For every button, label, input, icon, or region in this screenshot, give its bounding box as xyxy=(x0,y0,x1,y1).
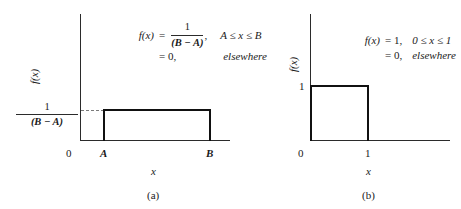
panel-a-caption: (a) xyxy=(147,190,159,201)
uniform-distribution-figure: f(x) = 1 (B − A) , A ≤ x ≤ B = 0, elsewh… xyxy=(0,0,461,209)
panel-a-formula-equals: = xyxy=(159,30,165,41)
panel-b-formula-lhs: f(x) xyxy=(352,35,380,46)
panel-a-formula-condition: A ≤ x ≤ B xyxy=(220,30,261,41)
panel-b-caption: (b) xyxy=(362,190,375,201)
panel-a-y-axis-label: f(x) xyxy=(29,69,40,84)
panel-a-x-axis-label: x xyxy=(151,166,156,177)
panel-a-formula: f(x) = 1 (B − A) , A ≤ x ≤ B = 0, elsewh… xyxy=(126,22,267,64)
panel-a-x-tick-0: 0 xyxy=(66,148,72,159)
panel-a-y-tick-label: 1 (B − A) xyxy=(16,101,78,128)
panel-a-dashed-guide xyxy=(81,110,104,111)
panel-b-x-tick-0: 0 xyxy=(298,148,304,159)
panel-b-x-axis-label: x xyxy=(366,166,371,177)
panel-a-y-axis xyxy=(80,14,81,141)
panel-b-formula-line2-condition: elsewhere xyxy=(412,50,456,61)
panel-b-formula-condition: 0 ≤ x ≤ 1 xyxy=(412,35,451,46)
panel-b-pdf-right-edge xyxy=(367,85,369,141)
panel-b-y-tick-1: 1 xyxy=(299,81,305,92)
panel-a-formula-lhs: f(x) xyxy=(126,30,154,41)
panel-a-pdf-left-edge xyxy=(103,109,105,141)
panel-b-pdf-top-edge xyxy=(310,85,369,87)
panel-a-formula-denominator: (B − A) xyxy=(171,35,203,49)
panel-b-formula-line2-equals: = 0, xyxy=(385,50,402,61)
panel-b-formula: f(x) = 1, 0 ≤ x ≤ 1 = 0, elsewhere xyxy=(352,33,456,63)
panel-b-x-tick-1: 1 xyxy=(365,148,371,159)
panel-a-formula-fraction: 1 (B − A) xyxy=(171,21,203,48)
panel-a-formula-line2-condition: elsewhere xyxy=(223,51,267,62)
panel-b-pdf-left-edge xyxy=(310,85,312,141)
panel-a-formula-line2-equals: = 0, xyxy=(159,51,176,62)
panel-b-formula-equals: = 1, xyxy=(385,35,402,46)
panel-a-x-tick-B: B xyxy=(206,148,213,159)
panel-b-x-axis xyxy=(310,140,450,141)
panel-a-y-tick-numerator: 1 xyxy=(16,101,78,114)
panel-a-formula-numerator: 1 xyxy=(171,21,203,34)
panel-a-pdf-top-edge xyxy=(103,109,211,111)
panel-a-y-tick-denominator: (B − A) xyxy=(16,114,78,128)
panel-a-pdf-right-edge xyxy=(209,109,211,141)
panel-b-y-axis-label: f(x) xyxy=(288,57,299,72)
panel-a-formula-comma: , xyxy=(204,30,207,41)
panel-a-x-tick-A: A xyxy=(100,148,107,159)
